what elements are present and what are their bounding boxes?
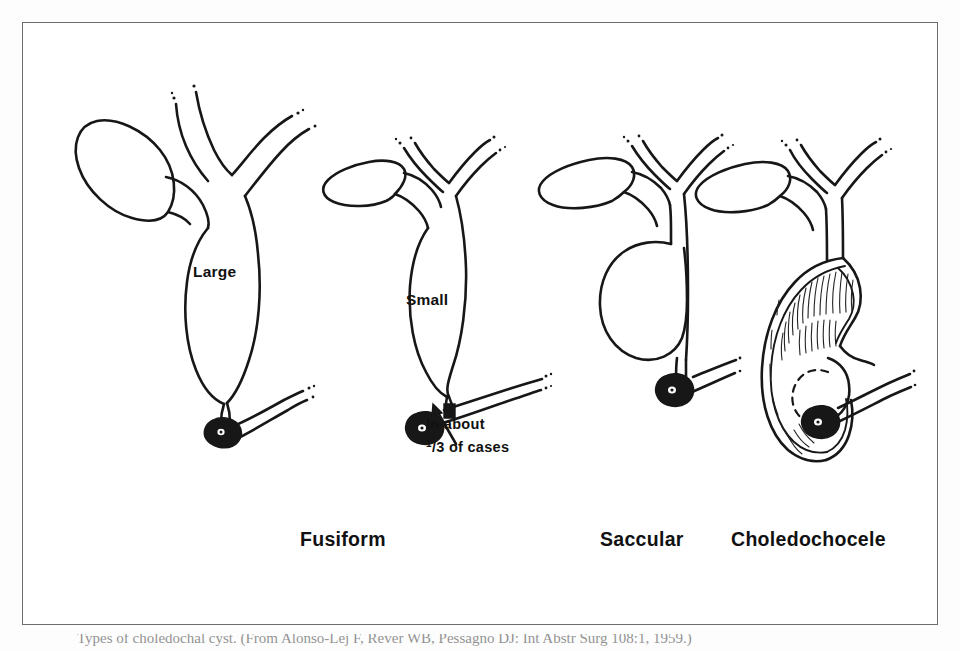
panel-label-fusiform: Fusiform bbox=[300, 528, 386, 551]
figure-caption-text: Types of choledochal cyst. (From Alonso-… bbox=[77, 634, 692, 647]
annotation-in-about: In about 1/3 of cases bbox=[426, 414, 509, 457]
figure-page: .ink { fill: none; stroke: #171717; stro… bbox=[0, 0, 960, 651]
inner-label-small: Small bbox=[406, 291, 448, 309]
inner-label-large: Large bbox=[193, 263, 236, 281]
figure-caption-strip: Types of choledochal cyst. (From Alonso-… bbox=[22, 634, 938, 651]
annotation-line-1: In about bbox=[426, 416, 485, 432]
annotation-line-2: /3 of cases bbox=[432, 439, 509, 455]
panel-label-saccular: Saccular bbox=[600, 528, 684, 551]
panel-label-choledochocele: Choledochocele bbox=[731, 528, 886, 551]
